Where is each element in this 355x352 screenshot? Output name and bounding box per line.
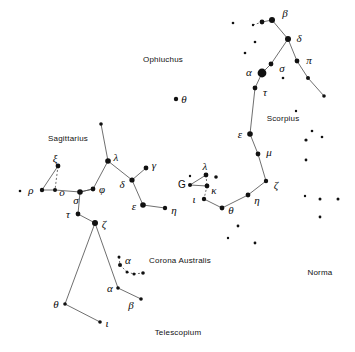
star-label: α (246, 67, 252, 78)
star-field-2 (254, 41, 257, 44)
star-field-17 (189, 175, 191, 177)
star-label: λ (114, 152, 119, 163)
star-chart: OphiuchusSagittariusScorpiusCorona Austr… (0, 0, 355, 352)
star-label: ξ (53, 153, 58, 164)
star-cra-arc-1 (118, 256, 121, 259)
star-label: τ (66, 209, 70, 220)
star-scorpius-pi-down2 (322, 94, 326, 98)
star-cra-kappa (205, 184, 210, 189)
constellation-line-scorpius-delta-sigma (271, 39, 288, 64)
constellation-line-sgr-lambda-up (101, 124, 108, 161)
constellation-line-scorpius-mu-zeta (258, 154, 266, 181)
star-label: δ (119, 179, 124, 190)
star-label: α (107, 283, 113, 294)
star-scorpius-zeta (264, 179, 268, 183)
star-field-16 (227, 237, 229, 239)
star-label: σ (279, 63, 284, 74)
star-field-12 (337, 198, 340, 201)
star-label: η (254, 195, 259, 206)
star-tel-alpha (116, 286, 120, 290)
star-tel-beta (139, 297, 143, 301)
star-field-5 (295, 110, 297, 112)
star-label: μ (266, 147, 272, 158)
star-field-7 (321, 136, 324, 139)
constellation-line-tel-theta-iota (65, 304, 100, 322)
star-field-4 (282, 77, 285, 80)
star-cra-arc-4 (133, 273, 136, 276)
star-label: θ (181, 94, 186, 105)
star-scorpius-epsilon (247, 131, 253, 137)
star-label: θ (53, 299, 58, 310)
star-cra-arc-3 (126, 271, 129, 274)
star-label: ι (192, 194, 195, 205)
star-label: τ (263, 87, 267, 98)
star-cra-arc-2 (118, 263, 122, 267)
star-scorpius-mu (256, 152, 261, 157)
star-label: ζ (102, 219, 106, 230)
star-scorpius-beta (269, 17, 275, 23)
star-sgr-eta (163, 206, 167, 210)
star-sgr-phi (91, 187, 96, 192)
star-label: σ (73, 195, 78, 206)
star-scorpius-delta (285, 36, 291, 42)
constellation-line-tel-zeta-alpha (95, 223, 118, 288)
star-sgr-lambda (105, 158, 111, 164)
star-scorpius-sigma (269, 62, 274, 67)
constellation-line-scorpius-tau-epsilon (250, 88, 255, 134)
star-label: ζ (274, 180, 278, 191)
constellation-name-sagittarius: Sagittarius (48, 134, 88, 143)
star-label: δ (296, 33, 301, 44)
star-label: η (171, 205, 176, 216)
star-ophiuchus-theta (174, 97, 178, 101)
constellation-name-ophiuchus: Ophiuchus (143, 55, 183, 64)
star-scorpius-beta-faint (252, 24, 254, 26)
star-field-14 (237, 225, 240, 228)
star-label: α (125, 255, 131, 266)
star-cra-lambda-companion (214, 175, 218, 179)
star-tel-theta (63, 302, 67, 306)
star-label: ι (105, 318, 108, 329)
star-cra-theta (220, 206, 225, 211)
star-label: φ (99, 184, 105, 195)
star-cra-iota (202, 197, 206, 201)
star-sgr-delta (129, 177, 134, 182)
star-scorpius-pi-down1 (306, 76, 310, 80)
star-label: β (282, 8, 287, 19)
star-field-10 (304, 195, 306, 197)
star-sgr-omicron (53, 188, 57, 192)
star-scorpius-tau (253, 86, 258, 91)
constellation-line-scorpius-eta-theta (222, 195, 248, 208)
star-field-8 (304, 138, 307, 141)
constellation-line-sgr-epsilon-eta (143, 205, 165, 208)
star-label: λ (203, 161, 208, 172)
star-sgr-gamma (144, 166, 149, 171)
constellation-line-tel-alpha-beta (118, 288, 141, 299)
star-field-6 (311, 130, 314, 133)
constellation-line-cra-kappa-g (190, 185, 207, 186)
star-sgr-rho-faint (19, 190, 22, 193)
constellation-name-corona-australis: Corona Australis (149, 256, 211, 265)
constellation-line-cra-iota-theta (204, 199, 222, 208)
star-sgr-epsilon (140, 202, 146, 208)
constellation-name-telescopium: Telescopium (155, 328, 202, 337)
star-tel-iota (98, 320, 102, 324)
constellation-line-scorpius-epsilon-mu (250, 134, 258, 154)
star-scorpius-pi (295, 59, 300, 64)
star-label: o (59, 187, 65, 198)
constellation-line-cra-g-lambda (190, 175, 206, 185)
star-cra-arc-5 (141, 271, 145, 275)
constellation-name-scorpius: Scorpius (267, 114, 300, 123)
star-label: θ (228, 205, 233, 216)
star-label: π (306, 55, 312, 66)
star-field-13 (319, 216, 322, 219)
star-field-3 (244, 52, 247, 55)
star-cra-lambda (204, 173, 209, 178)
star-scorpius-beta-companion (260, 20, 265, 25)
star-scorpius-eta (246, 193, 251, 198)
star-sgr-lambda-up (99, 122, 103, 126)
star-field-1 (232, 22, 235, 25)
star-sgr-xi (56, 164, 61, 169)
constellation-line-scorpius-beta-delta (272, 20, 288, 39)
star-label: ε (238, 129, 242, 140)
star-sgr-tau (76, 212, 81, 217)
